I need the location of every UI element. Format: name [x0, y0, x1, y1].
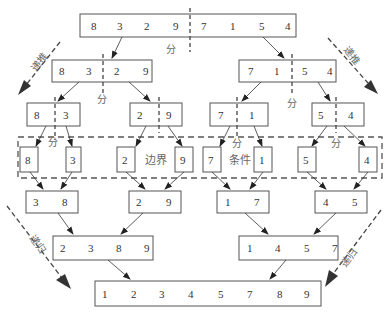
arrow — [58, 213, 73, 234]
pair-box-3: 7 1 — [210, 103, 268, 126]
cell: 5 — [318, 109, 324, 121]
arrow — [30, 172, 43, 189]
recurse-up-label: 递归 — [27, 232, 48, 255]
cell: 1 — [274, 65, 280, 77]
arrow — [66, 126, 72, 146]
cell: 3 — [159, 288, 165, 300]
arrow — [344, 126, 365, 146]
cell: 7 — [201, 20, 207, 32]
single-box: 3 — [66, 147, 81, 172]
arrow — [354, 172, 368, 189]
cell: 7 — [208, 154, 214, 166]
cell: 9 — [173, 20, 179, 32]
merged-pair-box-2: 2 9 — [129, 191, 181, 213]
cell: 7 — [218, 109, 224, 121]
arrow — [168, 126, 182, 146]
sorted-output-box: 1 2 3 4 5 7 8 9 — [95, 281, 321, 306]
single-box: 9 — [175, 147, 193, 172]
cell: 8 — [277, 288, 283, 300]
cell: 9 — [166, 109, 172, 121]
merged-quad-box-left: 2 3 8 9 — [53, 236, 153, 260]
arrow — [121, 213, 143, 234]
arrow — [220, 126, 230, 146]
merged-pair-box-3: 1 7 — [217, 191, 269, 213]
cell: 9 — [304, 288, 310, 300]
cell: 5 — [352, 196, 358, 208]
cell: 1 — [259, 154, 265, 166]
cell: 3 — [70, 154, 76, 166]
single-box: 5 — [298, 147, 316, 172]
cell: 2 — [122, 154, 128, 166]
condition-label: 条件 — [229, 153, 251, 167]
cell: 9 — [180, 154, 186, 166]
cell: 3 — [63, 109, 69, 121]
cell: 9 — [166, 196, 172, 208]
cell: 2 — [136, 196, 142, 208]
arrow — [270, 260, 286, 279]
merged-pair-box-4: 4 5 — [315, 191, 367, 213]
cell: 4 — [364, 154, 370, 166]
cell: 5 — [302, 65, 308, 77]
cell: 2 — [131, 288, 137, 300]
arrow — [36, 126, 46, 146]
recurse-down-label: 递推 — [341, 44, 363, 67]
cell: 4 — [348, 109, 354, 121]
arrow — [318, 82, 330, 101]
cell: 5 — [303, 154, 309, 166]
split-box-right: 7 1 5 4 — [239, 60, 336, 82]
cell: 7 — [247, 288, 253, 300]
divide-label: 分 — [48, 137, 58, 148]
cell: 2 — [137, 109, 143, 121]
arrow — [250, 172, 263, 189]
arrow — [165, 172, 184, 189]
cell: 8 — [25, 154, 31, 166]
merged-pair-box-1: 3 8 — [26, 191, 78, 213]
arrow — [112, 37, 122, 58]
cell: 4 — [188, 288, 194, 300]
cell: 4 — [285, 20, 291, 32]
cell: 8 — [62, 196, 68, 208]
cell: 1 — [247, 242, 253, 254]
cell: 9 — [144, 242, 150, 254]
cell: 4 — [275, 242, 281, 254]
cell: 8 — [34, 109, 40, 121]
arrow — [58, 82, 79, 101]
merge-sort-diagram: 8 3 2 9 7 1 5 4 分 8 3 2 9 分 7 1 5 4 分 8 … — [0, 0, 389, 314]
cell: 1 — [249, 109, 255, 121]
arrow — [242, 82, 261, 101]
cell: 8 — [91, 20, 97, 32]
cell: 3 — [86, 65, 92, 77]
cell: 7 — [248, 65, 254, 77]
cell: 3 — [117, 20, 123, 32]
arrow — [126, 172, 145, 189]
arrow — [108, 260, 130, 279]
cell: 9 — [143, 65, 149, 77]
cell: 3 — [88, 242, 94, 254]
cell: 7 — [332, 242, 338, 254]
single-box: 1 — [254, 147, 272, 172]
cell: 5 — [259, 20, 265, 32]
cell: 2 — [144, 20, 150, 32]
cell: 1 — [230, 20, 236, 32]
cell: 5 — [218, 288, 224, 300]
single-box: 8 — [20, 147, 38, 172]
single-box: 2 — [117, 147, 135, 172]
arrow — [136, 126, 146, 146]
pair-box-2: 2 9 — [130, 103, 182, 126]
cell: 7 — [254, 196, 260, 208]
cell: 8 — [116, 242, 122, 254]
arrow — [263, 37, 284, 58]
split-box-left: 8 3 2 9 — [52, 60, 152, 82]
arrow — [212, 172, 230, 189]
cell: 2 — [114, 65, 120, 77]
arrow — [245, 213, 268, 234]
cell: 2 — [60, 242, 66, 254]
cell: 4 — [323, 196, 329, 208]
cell: 8 — [59, 65, 65, 77]
cell: 1 — [102, 288, 108, 300]
cell: 1 — [225, 196, 231, 208]
merged-quad-box-right: 1 4 5 7 — [239, 236, 338, 260]
divide-label: 分 — [331, 138, 341, 149]
arrow — [312, 126, 327, 146]
cell: 4 — [327, 65, 333, 77]
